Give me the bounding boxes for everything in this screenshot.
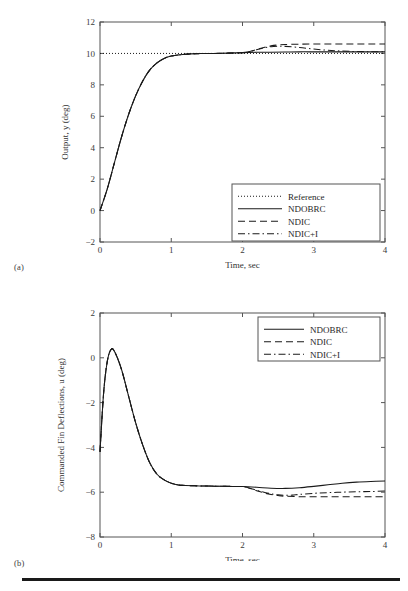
chart-panel-b: 01234−8−6−4−202Time, secCommanded Fin De…: [0, 291, 408, 561]
x-tick-label: 1: [169, 540, 174, 550]
y-tick-label: −4: [85, 443, 95, 453]
x-tick-label: 0: [98, 540, 103, 550]
x-tick-label: 2: [240, 245, 245, 255]
series-line-ndic: [100, 349, 385, 497]
y-tick-label: 10: [86, 49, 96, 59]
series-line-ndobrc: [100, 349, 385, 489]
y-tick-label: 0: [91, 206, 96, 216]
chart-b-svg: 01234−8−6−4−202Time, secCommanded Fin De…: [0, 291, 408, 561]
y-tick-label: 8: [91, 80, 96, 90]
chart-a-svg: 01234−2024681012Time, secOutput, y (deg)…: [0, 0, 408, 285]
y-tick-label: −6: [85, 487, 95, 497]
y-tick-label: 4: [91, 143, 96, 153]
x-tick-label: 0: [98, 245, 103, 255]
y-axis-title: Commanded Fin Deflections, u (deg): [56, 358, 66, 492]
y-tick-label: 6: [91, 111, 96, 121]
series-line-ndic-plusi: [100, 349, 385, 496]
x-tick-label: 2: [240, 540, 245, 550]
x-axis-title: Time, sec: [225, 555, 260, 561]
x-tick-label: 4: [383, 245, 388, 255]
subfigure-label-b: (b): [14, 558, 25, 568]
bottom-divider-rule: [22, 578, 400, 581]
subfigure-label-a: (a): [14, 262, 24, 272]
legend-label: Reference: [288, 192, 324, 202]
legend-label: NDIC+I: [310, 350, 340, 360]
legend-label: NDOBRC: [288, 204, 326, 214]
y-tick-label: −8: [85, 532, 95, 542]
y-tick-label: 0: [91, 353, 96, 363]
y-tick-label: 2: [91, 174, 96, 184]
y-tick-label: −2: [85, 237, 95, 247]
x-axis-title: Time, sec: [225, 260, 260, 270]
y-tick-label: 12: [86, 17, 95, 27]
y-tick-label: −2: [85, 398, 95, 408]
x-tick-label: 4: [383, 540, 388, 550]
y-tick-label: 2: [91, 308, 96, 318]
x-tick-label: 3: [312, 245, 317, 255]
figure-container: 01234−2024681012Time, secOutput, y (deg)…: [0, 0, 408, 591]
y-axis-title: Output, y (deg): [60, 104, 70, 159]
chart-panel-a: 01234−2024681012Time, secOutput, y (deg)…: [0, 0, 408, 285]
legend-label: NDIC: [288, 217, 310, 227]
legend-label: NDOBRC: [310, 325, 348, 335]
x-tick-label: 3: [312, 540, 317, 550]
x-tick-label: 1: [169, 245, 174, 255]
legend-label: NDIC+I: [288, 229, 318, 239]
legend-label: NDIC: [310, 337, 332, 347]
